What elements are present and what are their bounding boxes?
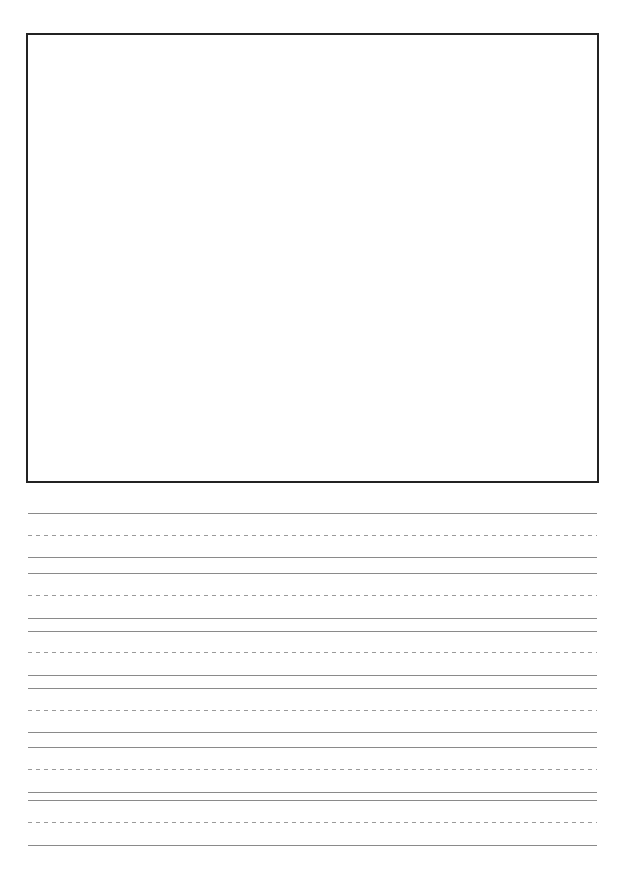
headline-solid <box>28 688 597 689</box>
drawing-box <box>26 33 599 483</box>
writing-paper-page <box>0 0 629 871</box>
baseline-solid <box>28 557 597 558</box>
midline-dashed <box>28 535 597 536</box>
headline-solid <box>28 747 597 748</box>
midline-dashed <box>28 652 597 653</box>
midline-dashed <box>28 769 597 770</box>
headline-solid <box>28 800 597 801</box>
headline-solid <box>28 573 597 574</box>
headline-solid <box>28 513 597 514</box>
midline-dashed <box>28 595 597 596</box>
headline-solid <box>28 631 597 632</box>
baseline-solid <box>28 675 597 676</box>
baseline-solid <box>28 845 597 846</box>
baseline-solid <box>28 618 597 619</box>
midline-dashed <box>28 710 597 711</box>
baseline-solid <box>28 732 597 733</box>
midline-dashed <box>28 822 597 823</box>
baseline-solid <box>28 792 597 793</box>
